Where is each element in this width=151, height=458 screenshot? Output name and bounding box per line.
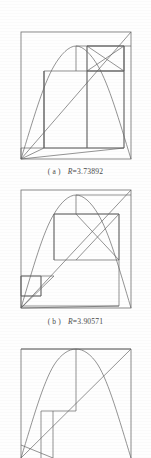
cobweb-lower-leg-c — [21, 445, 53, 458]
panel-param-b: R=3.90571 — [68, 317, 103, 326]
panel-param-a: R=3.73892 — [68, 167, 103, 176]
caption-a: ( a )R=3.73892 — [0, 167, 151, 176]
cobweb-left-small-square-b — [21, 276, 41, 296]
cobweb-return-left-a — [21, 148, 44, 159]
cobweb-svg-a — [19, 30, 133, 161]
cobweb-orbit-a — [21, 46, 124, 159]
cobweb-svg-b — [19, 188, 133, 310]
cobweb-return-right-a — [21, 148, 124, 159]
panel-label-a: ( a ) — [48, 167, 61, 176]
cobweb-plot-a — [19, 30, 133, 161]
panel-label-b: ( b ) — [48, 317, 61, 326]
cobweb-big-rect-b — [54, 214, 119, 260]
cobweb-plot-b — [19, 188, 133, 310]
cobweb-svg-c — [19, 345, 133, 458]
cobweb-plot-c — [19, 345, 133, 458]
caption-b: ( b )R=3.90571 — [0, 317, 151, 326]
figure-container: ( a )R=3.73892 — [0, 0, 151, 458]
cobweb-bottom-rect-b — [21, 260, 119, 306]
param-value-b: 3.90571 — [77, 317, 103, 326]
param-value-a: 3.73892 — [77, 167, 103, 176]
